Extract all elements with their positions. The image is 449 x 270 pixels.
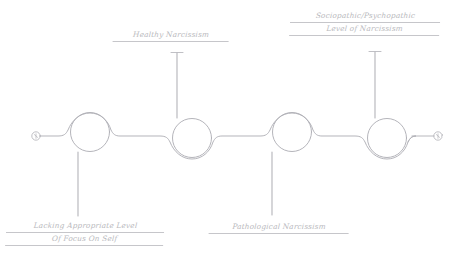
label-socio-line1: Sociopathic/Psychopathic bbox=[290, 10, 441, 23]
label-lacking-line1: Lacking Appropriate Level bbox=[6, 220, 165, 233]
endpoint-right-icon bbox=[434, 132, 442, 140]
label-pathological-narcissism: Pathological Narcissism bbox=[209, 221, 350, 234]
spectrum-path bbox=[40, 113, 434, 159]
label-healthy-narcissism: Healthy Narcissism bbox=[113, 29, 230, 42]
node-circle-2 bbox=[173, 119, 212, 158]
stem-node-2-up bbox=[171, 53, 183, 119]
stem-node-4-up bbox=[369, 52, 381, 119]
node-circle-4 bbox=[368, 119, 407, 158]
label-healthy-line1: Healthy Narcissism bbox=[113, 29, 230, 42]
label-socio-line2: Level of Narcissism bbox=[289, 23, 440, 36]
endpoint-left-icon bbox=[32, 132, 40, 140]
label-lacking-focus: Lacking Appropriate Level Of Focus On Se… bbox=[5, 220, 165, 246]
label-lacking-line2: Of Focus On Self bbox=[5, 233, 164, 246]
label-patho-line1: Pathological Narcissism bbox=[209, 221, 350, 234]
label-sociopathic-narcissism: Sociopathic/Psychopathic Level of Narcis… bbox=[289, 10, 441, 36]
node-circle-3 bbox=[273, 113, 312, 152]
node-circle-1 bbox=[71, 113, 110, 152]
